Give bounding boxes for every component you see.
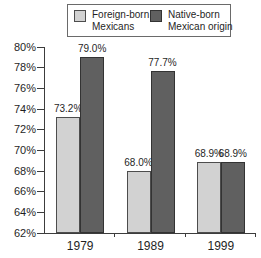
legend-label-line: Mexican origin xyxy=(168,21,232,32)
legend-item-native-born: Native-bornMexican origin xyxy=(150,9,232,33)
legend-swatch-foreign-born xyxy=(74,10,86,22)
y-axis-tick-label: 66% xyxy=(0,185,36,198)
y-axis-tick-label: 74% xyxy=(0,103,36,116)
bar-foreign-born-1979 xyxy=(56,117,80,233)
bar-chart: Foreign-bornMexicans Native-bornMexican … xyxy=(0,0,261,258)
y-axis-tick xyxy=(37,109,44,110)
x-axis-tick xyxy=(255,233,256,237)
legend-label-line: Foreign-born xyxy=(92,9,149,20)
bar-native-born-1989 xyxy=(151,71,175,233)
legend-label-native-born: Native-bornMexican origin xyxy=(168,9,232,33)
y-axis-tick-label: 64% xyxy=(0,206,36,219)
x-axis-category-label: 1999 xyxy=(186,239,256,253)
y-axis-tick-label: 70% xyxy=(0,144,36,157)
legend-label-foreign-born: Foreign-bornMexicans xyxy=(92,9,149,33)
legend-item-foreign-born: Foreign-bornMexicans xyxy=(74,9,149,33)
x-axis-category-label: 1979 xyxy=(45,239,115,253)
bar-value-label: 77.7% xyxy=(141,57,185,69)
legend-label-line: Native-born xyxy=(168,9,220,20)
y-axis-tick-label: 80% xyxy=(0,41,36,54)
y-axis-tick-label: 72% xyxy=(0,123,36,136)
legend-label-line: Mexicans xyxy=(92,21,134,32)
bar-native-born-1979 xyxy=(80,57,104,233)
y-axis-tick xyxy=(37,47,44,48)
y-axis-tick xyxy=(37,67,44,68)
y-axis-tick xyxy=(37,233,44,234)
y-axis-tick xyxy=(37,88,44,89)
x-axis-tick xyxy=(185,233,186,237)
y-axis-tick-label: 62% xyxy=(0,227,36,240)
y-axis-tick xyxy=(37,129,44,130)
x-axis-category-label: 1989 xyxy=(115,239,185,253)
bar-foreign-born-1999 xyxy=(197,162,221,233)
bar-native-born-1999 xyxy=(221,162,245,233)
y-axis-tick-label: 78% xyxy=(0,61,36,74)
bar-value-label: 68.9% xyxy=(211,148,255,160)
y-axis-tick xyxy=(37,191,44,192)
y-axis-tick xyxy=(37,212,44,213)
y-axis-tick xyxy=(37,150,44,151)
y-axis-tick-label: 76% xyxy=(0,82,36,95)
plot-area: 73.2%79.0%197968.0%77.7%198968.9%68.9%19… xyxy=(44,47,256,234)
legend-swatch-native-born xyxy=(150,10,162,22)
bar-value-label: 79.0% xyxy=(70,43,114,55)
y-axis-tick xyxy=(37,171,44,172)
bar-foreign-born-1989 xyxy=(127,171,151,233)
x-axis-tick xyxy=(114,233,115,237)
chart-legend: Foreign-bornMexicans Native-bornMexican … xyxy=(67,4,231,37)
y-axis-tick-label: 68% xyxy=(0,165,36,178)
